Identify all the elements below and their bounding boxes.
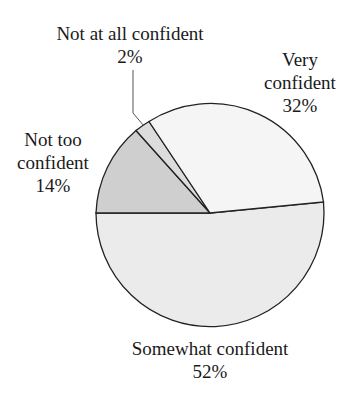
label-text: confident xyxy=(250,71,349,94)
label-text: Somewhat confident xyxy=(100,337,320,360)
label-text: Not too xyxy=(0,128,106,151)
label-text: Very xyxy=(250,48,349,71)
leader-line-not-at-all xyxy=(133,70,144,126)
label-percent: 52% xyxy=(100,360,320,383)
label-not-too-confident: Not too confident 14% xyxy=(0,128,106,197)
label-not-at-all-confident: Not at all confident 2% xyxy=(30,22,230,68)
slice-somewhat-confident xyxy=(96,202,324,327)
label-very-confident: Very confident 32% xyxy=(250,48,349,117)
label-text: Not at all confident xyxy=(30,22,230,45)
label-percent: 14% xyxy=(0,174,106,197)
label-text: confident xyxy=(0,151,106,174)
label-somewhat-confident: Somewhat confident 52% xyxy=(100,337,320,383)
label-percent: 32% xyxy=(250,94,349,117)
label-percent: 2% xyxy=(30,45,230,68)
